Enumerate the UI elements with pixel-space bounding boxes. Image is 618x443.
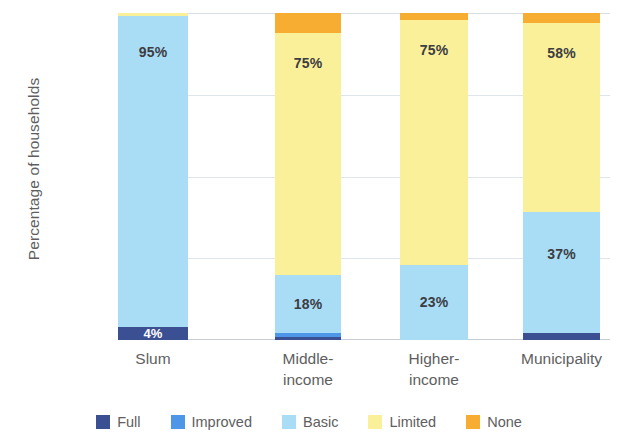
x-tick-label-middle-income: Middle- income (248, 349, 368, 390)
legend-swatch-icon (466, 415, 480, 429)
bar-value-label: 58% (547, 45, 576, 61)
x-tick-label-higher-income: Higher- income (374, 349, 494, 390)
chart-container: Percentage of households 100%75%50%25%0%… (0, 0, 618, 443)
bar-segment-none[interactable] (400, 13, 468, 20)
legend-item-improved[interactable]: Improved (171, 414, 252, 430)
bar-segment-full[interactable] (523, 333, 600, 340)
legend-swatch-icon (171, 415, 185, 429)
bar-segment-full[interactable]: 4% (118, 327, 188, 340)
bar-segment-basic[interactable]: 95% (118, 16, 188, 327)
bar-value-label: 75% (420, 42, 449, 58)
legend-swatch-icon (96, 415, 110, 429)
bar-segment-basic[interactable]: 23% (400, 265, 468, 340)
bar-higher-income[interactable]: 23%75% (400, 13, 468, 340)
legend-item-limited[interactable]: Limited (368, 414, 436, 430)
bar-middle-income[interactable]: 18%75% (275, 13, 341, 340)
bar-segment-limited[interactable] (118, 13, 188, 16)
legend-label: Full (117, 414, 140, 430)
bar-value-label: 18% (294, 296, 323, 312)
bar-segment-basic[interactable]: 37% (523, 212, 600, 333)
bar-segment-limited[interactable]: 75% (275, 33, 341, 275)
bar-segment-limited[interactable]: 58% (523, 23, 600, 213)
legend-label: Limited (389, 414, 436, 430)
plot-area: 4%95%18%75%23%75%37%58% (118, 13, 610, 340)
bar-value-label: 4% (143, 326, 162, 341)
legend-label: Basic (303, 414, 338, 430)
chart-legend: FullImprovedBasicLimitedNone (0, 414, 618, 430)
legend-label: None (487, 414, 522, 430)
y-axis-title: Percentage of households (25, 39, 43, 299)
bar-value-label: 75% (294, 55, 323, 71)
bar-slum[interactable]: 4%95% (118, 13, 188, 340)
legend-item-full[interactable]: Full (96, 414, 140, 430)
bar-segment-limited[interactable]: 75% (400, 20, 468, 265)
legend-label: Improved (192, 414, 252, 430)
bar-value-label: 37% (547, 246, 576, 262)
bar-segment-improved[interactable] (275, 333, 341, 336)
bar-segment-full[interactable] (275, 337, 341, 340)
bar-segment-basic[interactable]: 18% (275, 275, 341, 334)
x-tick-label-municipality: Municipality (502, 349, 618, 370)
legend-swatch-icon (368, 415, 382, 429)
x-tick-label-slum: Slum (93, 349, 213, 370)
legend-item-basic[interactable]: Basic (282, 414, 338, 430)
legend-swatch-icon (282, 415, 296, 429)
bar-municipality[interactable]: 37%58% (523, 13, 600, 340)
legend-item-none[interactable]: None (466, 414, 522, 430)
bar-value-label: 95% (139, 44, 168, 60)
bar-value-label: 23% (420, 294, 449, 310)
bar-segment-none[interactable] (523, 13, 600, 23)
bar-segment-none[interactable] (275, 13, 341, 33)
